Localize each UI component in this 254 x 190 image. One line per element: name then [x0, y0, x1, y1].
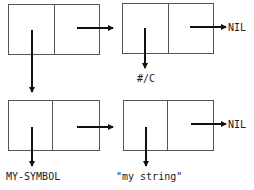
cell-3-box [9, 101, 100, 151]
cons-cell-2: NIL #/C [123, 4, 247, 85]
cons-cell-3: MY-SYMBOL [6, 101, 113, 183]
cons-cell-diagram: NIL #/C MY-SYMBOL NIL "my string" [0, 0, 254, 190]
my-string-label: "my string" [116, 171, 182, 182]
nil-label-bottom: NIL [228, 119, 246, 130]
char-c-label: #/C [137, 73, 155, 84]
cons-cell-1 [9, 5, 114, 93]
cons-cell-4: NIL "my string" [116, 101, 246, 183]
cell-4-box [124, 101, 214, 151]
my-symbol-label: MY-SYMBOL [6, 171, 60, 182]
nil-label-top: NIL [228, 22, 246, 33]
